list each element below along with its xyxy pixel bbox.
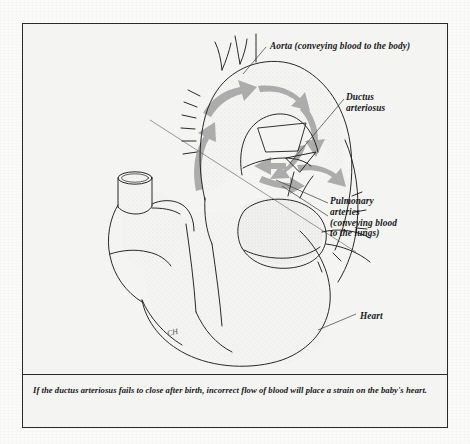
label-heart: Heart bbox=[360, 311, 383, 322]
label-ductus-arteriosus: Ductus arteriosus bbox=[346, 92, 385, 114]
label-pulmonary-arteries: Pulmonary arteries (conveying blood to t… bbox=[330, 196, 397, 239]
figure-page: Aorta (conveying blood to the body) Duct… bbox=[0, 0, 470, 444]
figure-caption: If the ductus arteriosus fails to close … bbox=[33, 384, 433, 396]
caption-divider bbox=[23, 374, 447, 375]
label-aorta: Aorta (conveying blood to the body) bbox=[270, 41, 410, 52]
